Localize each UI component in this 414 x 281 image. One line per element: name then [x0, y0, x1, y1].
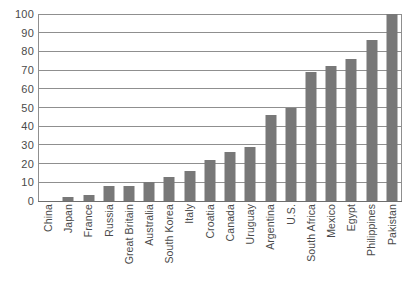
bar-slot: [240, 14, 260, 201]
x-tick-label: South Korea: [164, 204, 175, 263]
x-tick-label: Japan: [63, 204, 74, 233]
bar[interactable]: [83, 195, 94, 201]
bar[interactable]: [63, 197, 74, 201]
bar[interactable]: [366, 40, 377, 201]
plot-area: [38, 14, 402, 201]
x-tick-label: Pakistan: [387, 204, 398, 245]
x-tick-label: Russia: [104, 204, 115, 237]
bar-slot: [301, 14, 321, 201]
bar[interactable]: [144, 182, 155, 201]
bar-slot: [341, 14, 361, 201]
bar-slot: [58, 14, 78, 201]
x-tick-label: Mexico: [326, 204, 337, 238]
y-tick-label: 80: [0, 46, 34, 57]
bar-slot: [99, 14, 119, 201]
bar-chart: 0102030405060708090100 ChinaJapanFranceR…: [0, 0, 414, 281]
x-tick-label: Philippines: [366, 204, 377, 256]
x-tick-label: Italy: [184, 204, 195, 224]
bar[interactable]: [184, 171, 195, 201]
y-tick-label: 20: [0, 158, 34, 169]
bar[interactable]: [346, 59, 357, 201]
bar[interactable]: [245, 147, 256, 201]
x-tick-label: Croatia: [205, 204, 216, 239]
bar[interactable]: [326, 66, 337, 201]
axis-line-left: [38, 14, 39, 201]
x-tick-label: Argentina: [265, 204, 276, 250]
bar[interactable]: [123, 186, 134, 201]
y-tick-label: 70: [0, 65, 34, 76]
y-tick-label: 0: [0, 196, 34, 207]
y-tick-label: 10: [0, 177, 34, 188]
bar-slot: [139, 14, 159, 201]
x-tick-label: China: [43, 204, 54, 232]
x-tick-label: U.S.: [286, 204, 297, 225]
y-axis: 0102030405060708090100: [0, 14, 34, 201]
y-tick-label: 50: [0, 102, 34, 113]
x-tick-label: Egypt: [346, 204, 357, 231]
x-tick-label: France: [83, 204, 94, 237]
bar-slot: [180, 14, 200, 201]
y-tick-label: 100: [0, 9, 34, 20]
bar-slot: [119, 14, 139, 201]
bar-slot: [200, 14, 220, 201]
bar[interactable]: [265, 115, 276, 201]
bar-slot: [260, 14, 280, 201]
bar[interactable]: [225, 152, 236, 201]
x-tick-label: Uruguay: [245, 204, 256, 244]
y-tick-label: 60: [0, 83, 34, 94]
y-tick-label: 30: [0, 139, 34, 150]
axis-line-right: [401, 14, 402, 201]
bars-layer: [38, 14, 402, 201]
bar-slot: [78, 14, 98, 201]
bar[interactable]: [164, 177, 175, 201]
bar[interactable]: [285, 108, 296, 202]
x-tick-label: Great Britain: [124, 204, 135, 264]
y-tick-label: 40: [0, 121, 34, 132]
x-tick-label: Canada: [225, 204, 236, 241]
bar[interactable]: [305, 72, 316, 201]
bar[interactable]: [386, 14, 397, 201]
bar-slot: [281, 14, 301, 201]
bar[interactable]: [103, 186, 114, 201]
bar-slot: [321, 14, 341, 201]
bar-slot: [220, 14, 240, 201]
bar-slot: [38, 14, 58, 201]
x-axis: ChinaJapanFranceRussiaGreat BritainAustr…: [38, 202, 402, 281]
bar-slot: [159, 14, 179, 201]
x-tick-label: Australia: [144, 204, 155, 246]
bar-slot: [382, 14, 402, 201]
bar[interactable]: [204, 160, 215, 201]
y-tick-label: 90: [0, 27, 34, 38]
x-tick-label: South Africa: [306, 204, 317, 262]
bar-slot: [362, 14, 382, 201]
